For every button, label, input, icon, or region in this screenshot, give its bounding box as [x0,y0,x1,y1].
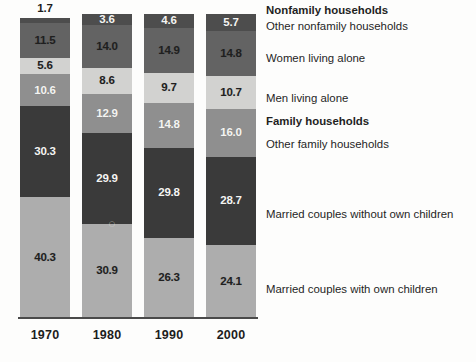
legend-label: Other family households [266,138,389,150]
segment-other-family-1980[interactable]: 12.9 [82,94,132,133]
segment-value: 5.6 [37,60,52,72]
segment-married-with-children-1990[interactable]: 26.3 [144,238,194,318]
legend-item-3: Men living alone [266,92,348,105]
segment-married-with-children-2000[interactable]: 24.1 [206,245,256,318]
segment-value: 30.9 [96,265,118,277]
segment-men-alone-1970[interactable]: 5.6 [20,58,70,75]
segment-married-with-children-1980[interactable]: 30.9 [82,224,132,318]
bar-1990[interactable]: 4.614.99.714.829.826.3 [144,14,194,318]
legend-item-5: Other family households [266,138,389,151]
plot-area: 1.7 11.55.610.630.340.3 3.614.08.612.929… [0,0,262,362]
legend-label: Family households [266,115,369,127]
legend-label: Nonfamily households [266,4,388,16]
axis-tick-1980: 1980 [82,328,132,342]
segment-married-no-children-1980[interactable]: 29.9 [82,133,132,224]
segment-value: 8.6 [99,75,114,87]
segment-value: 28.7 [220,195,242,207]
segment-men-alone-1990[interactable]: 9.7 [144,73,194,102]
segment-value: 10.6 [34,85,56,97]
segment-other-nonfamily-2000[interactable]: 5.7 [206,14,256,31]
legend-item-7: Married couples with own children [266,283,438,296]
segment-value: 10.7 [220,87,242,99]
legend-item-0: Nonfamily households [266,4,388,17]
segment-other-family-1970[interactable]: 10.6 [20,74,70,106]
legend-label: Women living alone [266,52,365,64]
segment-value: 11.5 [35,35,56,47]
segment-value: 29.9 [96,173,118,185]
segment-other-nonfamily-1990[interactable]: 4.6 [144,14,194,28]
segment-men-alone-1980[interactable]: 8.6 [82,68,132,94]
segment-value: 12.9 [96,108,118,120]
axis-tick-1990: 1990 [144,328,194,342]
segment-value: 29.8 [158,187,180,199]
bar-1980[interactable]: 3.614.08.612.929.930.9 [82,14,132,318]
segment-value: 14.8 [158,119,180,131]
legend-item-6: Married couples without own children [266,208,453,221]
segment-value: 30.3 [34,146,56,158]
segment-other-family-2000[interactable]: 16.0 [206,109,256,158]
segment-value: 9.7 [161,82,176,94]
segment-married-no-children-2000[interactable]: 28.7 [206,157,256,244]
bar-1970[interactable]: 11.55.610.630.340.3 [20,18,70,318]
segment-value: 40.3 [34,252,56,264]
legend: Nonfamily householdsOther nonfamily hous… [266,0,476,362]
segment-women-alone-2000[interactable]: 14.8 [206,31,256,76]
legend-label: Married couples without own children [266,208,453,220]
axis-tick-2000: 2000 [206,328,256,342]
segment-value: 16.0 [220,127,242,139]
x-axis-line [18,317,258,319]
legend-label: Other nonfamily households [266,20,408,32]
segment-married-no-children-1970[interactable]: 30.3 [20,106,70,197]
segment-men-alone-2000[interactable]: 10.7 [206,76,256,109]
legend-label: Men living alone [266,92,348,104]
segment-other-family-1990[interactable]: 14.8 [144,103,194,148]
segment-value: 14.9 [158,45,180,57]
segment-value: 26.3 [158,272,180,284]
axis-tick-1970: 1970 [20,328,70,342]
segment-value: 5.7 [223,17,238,29]
segment-women-alone-1980[interactable]: 14.0 [82,25,132,68]
bar-top-caption-1970: 1.7 [20,2,70,14]
segment-value: 4.6 [161,15,176,27]
segment-married-with-children-1970[interactable]: 40.3 [20,197,70,318]
bar-2000[interactable]: 5.714.810.716.028.724.1 [206,14,256,318]
segment-value: 14.8 [220,48,242,60]
segment-women-alone-1990[interactable]: 14.9 [144,28,194,73]
legend-item-2: Women living alone [266,52,365,65]
segment-value: 24.1 [220,276,242,288]
segment-value: 3.6 [99,14,114,25]
segment-married-no-children-1990[interactable]: 29.8 [144,148,194,239]
segment-other-nonfamily-1980[interactable]: 3.6 [82,14,132,25]
segment-value: 14.0 [96,41,118,53]
legend-item-4: Family households [266,115,369,128]
stacked-bar-chart: 1.7 11.55.610.630.340.3 3.614.08.612.929… [0,0,476,362]
segment-women-alone-1970[interactable]: 11.5 [20,23,70,58]
legend-label: Married couples with own children [266,283,438,295]
legend-item-1: Other nonfamily households [266,20,408,33]
